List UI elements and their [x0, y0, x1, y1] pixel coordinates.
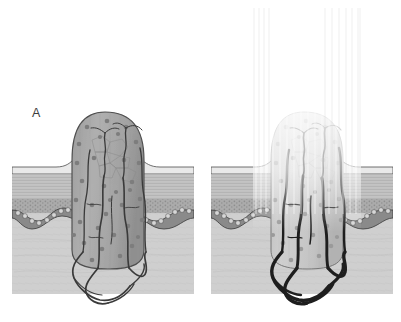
lesion-group [72, 112, 144, 270]
panel-label-a: A [32, 106, 41, 120]
panel-b: B [203, 0, 399, 322]
light-beam [253, 8, 361, 232]
figure-root: A [0, 0, 401, 322]
panel-a: A [4, 0, 200, 322]
panel-a-canvas [4, 0, 200, 322]
panel-b-canvas [203, 0, 399, 322]
